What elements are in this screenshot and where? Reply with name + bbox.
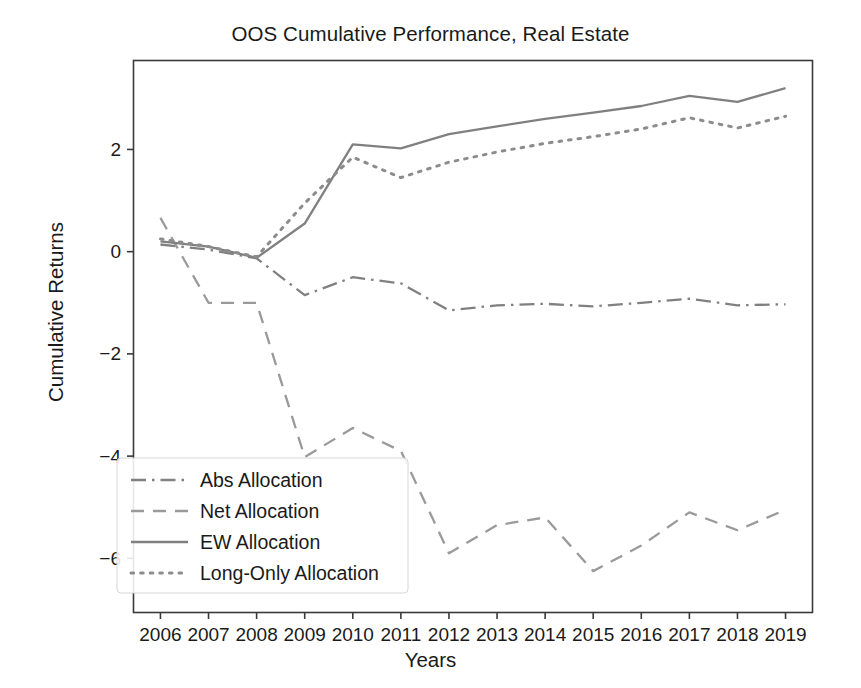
- legend-label: Long-Only Allocation: [200, 562, 379, 584]
- x-tick-label: 2010: [332, 624, 374, 645]
- x-tick-label: 2018: [716, 624, 758, 645]
- x-tick-label: 2015: [572, 624, 614, 645]
- x-tick-label: 2006: [139, 624, 181, 645]
- x-tick-label: 2014: [524, 624, 567, 645]
- x-tick-label: 2013: [476, 624, 518, 645]
- legend-label: EW Allocation: [200, 531, 320, 553]
- legend-label: Abs Allocation: [200, 469, 323, 491]
- x-tick-label: 2012: [428, 624, 470, 645]
- chart-legend: Abs AllocationNet AllocationEW Allocatio…: [117, 458, 408, 593]
- y-tick-label: 2: [110, 139, 121, 160]
- series-line-long-only-allocation: [160, 116, 785, 257]
- y-tick-label: 0: [110, 241, 121, 262]
- x-tick-label: 2007: [187, 624, 229, 645]
- series-line-abs-allocation: [160, 245, 785, 311]
- x-tick-label: 2016: [620, 624, 662, 645]
- chart-figure: OOS Cumulative Performance, Real Estate …: [0, 0, 861, 688]
- x-tick-label: 2011: [380, 624, 421, 645]
- x-tick-label: 2017: [668, 624, 710, 645]
- y-tick-label: −2: [99, 343, 121, 364]
- plot-area: 20−2−4−6 2006200720082009201020112012201…: [0, 0, 861, 688]
- x-axis-ticks: 2006200720082009201020112012201320142015…: [139, 612, 806, 645]
- x-tick-label: 2009: [284, 624, 326, 645]
- series-line-ew-allocation: [160, 88, 785, 258]
- x-tick-label: 2019: [764, 624, 806, 645]
- legend-label: Net Allocation: [200, 500, 319, 522]
- x-tick-label: 2008: [235, 624, 277, 645]
